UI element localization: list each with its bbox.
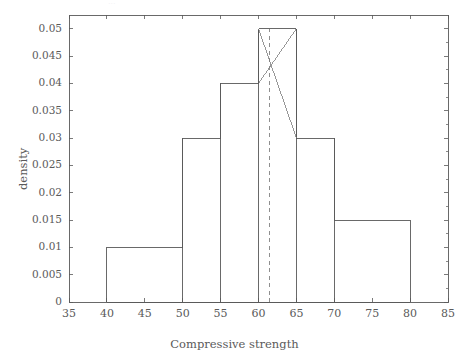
y-axis-tick-label: 0 — [0, 295, 62, 307]
x-axis-tick-label: 70 — [314, 307, 354, 320]
y-axis-tick-label: 0.035 — [0, 104, 62, 116]
x-axis-tick-label: 35 — [49, 307, 89, 320]
x-axis-tick-label: 65 — [276, 307, 316, 320]
x-axis-tick-label: 40 — [87, 307, 127, 320]
x-axis-tick-label: 55 — [201, 307, 241, 320]
y-axis-tick-label: 0.02 — [0, 186, 62, 198]
x-axis-tick-label: 75 — [352, 307, 392, 320]
y-axis-tick-label: 0.015 — [0, 213, 62, 225]
y-axis-tick-label: 0.03 — [0, 131, 62, 143]
y-axis-tick-label: 0.005 — [0, 268, 62, 280]
y-axis-tick-label: 0.045 — [0, 49, 62, 61]
x-axis-tick-label: 85 — [428, 307, 468, 320]
y-axis-tick-label: 0.025 — [0, 158, 62, 170]
y-axis-title: density — [16, 148, 30, 190]
x-axis-tick-label: 50 — [163, 307, 203, 320]
x-axis-title: Compressive strength — [0, 337, 469, 351]
x-axis-tick-label: 60 — [239, 307, 279, 320]
interpolation-line-descending — [259, 29, 297, 138]
y-axis-tick-label: 0.04 — [0, 76, 62, 88]
x-axis-tick-label: 80 — [390, 307, 430, 320]
x-axis-tick-label: 45 — [125, 307, 165, 320]
interpolation-line-ascending — [259, 29, 297, 84]
y-axis-tick-label: 0.05 — [0, 22, 62, 34]
y-axis-tick-label: 0.01 — [0, 240, 62, 252]
chart-figure: ··· 00.0050.010.0150.020.0250.030.0350.0… — [0, 0, 469, 363]
